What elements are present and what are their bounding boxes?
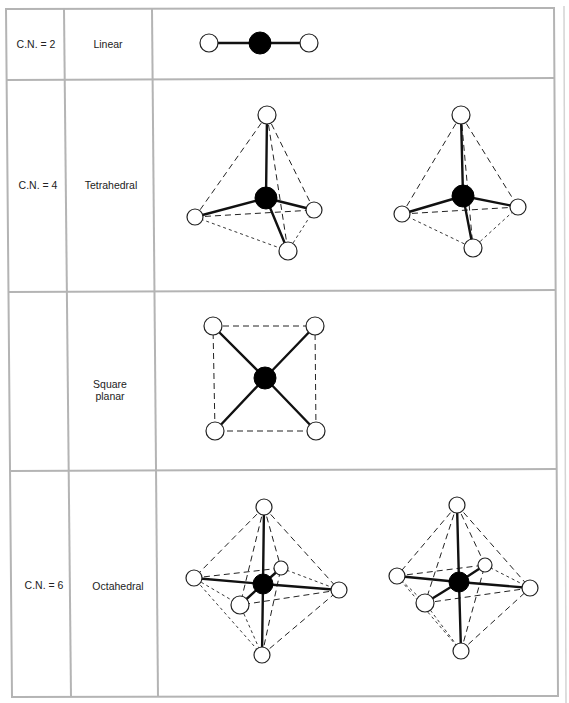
ligand-atom [449, 497, 465, 513]
row-divider-1 [7, 78, 555, 80]
ligand-atom [510, 199, 526, 215]
page-edge-line [564, 6, 566, 703]
column-divider-1 [64, 9, 71, 697]
ligand-atom [231, 596, 249, 614]
ligand-atom [478, 558, 492, 572]
metal-atom [249, 32, 271, 54]
metal-atom [255, 187, 277, 209]
ligand-atom [186, 570, 202, 586]
ligand-atom [200, 34, 218, 52]
coordination-number-label: C.N. = 2 [17, 38, 56, 50]
geometry-label-line-1: Square [93, 378, 127, 390]
ligand-atom [300, 34, 318, 52]
ligand-atom [187, 209, 203, 225]
table-diagram [0, 0, 569, 703]
ligand-atom [389, 568, 405, 584]
ligand-atom [394, 206, 410, 222]
coordination-number-label: C.N. = 6 [25, 579, 64, 591]
square-planar-molecule-figure [204, 317, 325, 440]
geometry-label: Octahedral [92, 580, 143, 592]
ligand-atom [258, 106, 276, 124]
ligand-atom [256, 499, 272, 515]
table-border [6, 8, 558, 697]
ligand-atom [331, 582, 347, 598]
metal-atom [253, 574, 273, 594]
ligand-atom [453, 643, 469, 659]
coordination-geometry-table: C.N. = 2 Linear C.N. = 4 Tetrahedral Squ… [0, 0, 569, 703]
ligand-atom [204, 317, 222, 335]
geometry-label: Linear [93, 38, 122, 50]
metal-atom [452, 185, 474, 207]
geometry-label-line-2: planar [95, 390, 124, 402]
row-divider-3 [10, 469, 557, 471]
linear-molecule-figure [200, 32, 318, 54]
metal-atom [254, 367, 276, 389]
ligand-atom [522, 580, 538, 596]
ligand-atom [306, 202, 322, 218]
row-divider-2 [9, 290, 556, 292]
ligand-atom [254, 647, 270, 663]
ligand-atom [206, 422, 224, 440]
ligand-atom [306, 317, 324, 335]
ligand-atom [307, 422, 325, 440]
ligand-atom [464, 239, 482, 257]
column-divider-2 [152, 9, 158, 697]
tetrahedral-molecule-figure-1 [187, 106, 322, 260]
metal-atom [449, 572, 469, 592]
octahedral-molecule-figure-2 [389, 497, 538, 659]
ligand-atom [274, 561, 288, 575]
tetrahedral-molecule-figure-2 [394, 106, 526, 257]
ligand-atom [279, 242, 297, 260]
geometry-label: Tetrahedral [85, 179, 138, 191]
octahedral-molecule-figure-1 [186, 499, 347, 663]
ligand-atom [416, 594, 434, 612]
ligand-atom [452, 106, 470, 124]
coordination-number-label: C.N. = 4 [19, 179, 58, 191]
